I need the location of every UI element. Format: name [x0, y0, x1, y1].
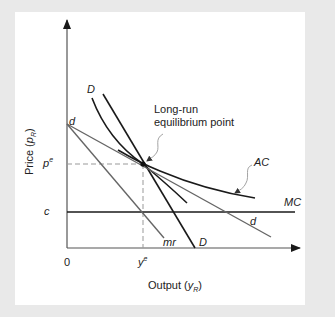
- origin-label: 0: [64, 256, 70, 268]
- x-axis-title: Output (yR): [148, 279, 202, 293]
- label-d-bottom: d: [250, 215, 257, 227]
- marginal-revenue-curve: [67, 124, 164, 238]
- annotation-pointer: [147, 134, 163, 161]
- monopolistic-competition-diagram: D d Long-run equilibrium point AC MC d m…: [0, 0, 335, 317]
- price-equilibrium-label: pe: [42, 156, 53, 169]
- label-mr: mr: [163, 236, 177, 248]
- annotation-line1: Long-run: [154, 103, 198, 115]
- annotation-line2: equilibrium point: [154, 116, 234, 128]
- label-D-top: D: [87, 83, 95, 95]
- equilibrium-point: [140, 161, 145, 166]
- output-equilibrium-label: ye: [137, 255, 148, 268]
- label-AC: AC: [253, 156, 269, 168]
- label-D-bottom: D: [199, 236, 207, 248]
- cost-level-label: c: [44, 205, 50, 217]
- firm-demand-curve: [67, 124, 271, 237]
- label-MC: MC: [284, 196, 301, 208]
- y-axis-title: Price (pR): [23, 128, 37, 175]
- ac-pointer: [235, 165, 252, 193]
- label-d-top: d: [69, 115, 76, 127]
